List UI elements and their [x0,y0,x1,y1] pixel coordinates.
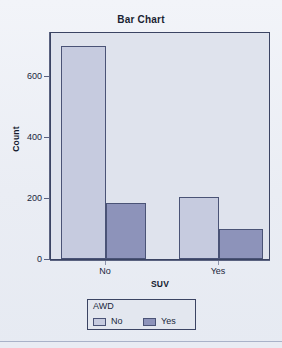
legend-swatch-no-icon [93,318,106,326]
bar-suv-yes-awd-yes[interactable] [219,229,263,259]
x-tick-mark-no [105,261,106,265]
chart-page: Bar Chart 0 200 400 600 Count No Yes SUV… [0,0,282,348]
plot-area [50,32,270,260]
y-tick-mark-400 [44,137,49,138]
y-tick-mark-200 [44,198,49,199]
x-axis-line [50,260,270,261]
y-tick-label-600: 600 [0,72,42,81]
y-tick-mark-600 [44,76,49,77]
legend-label-yes: Yes [161,317,176,326]
y-tick-label-200: 200 [0,194,42,203]
legend-label-no: No [111,317,123,326]
y-axis-title: Count [11,114,21,164]
x-axis-title: SUV [50,279,270,289]
legend-item-yes[interactable]: Yes [143,315,176,328]
y-axis-line [49,32,50,260]
page-title: Bar Chart [0,14,282,25]
legend-item-no[interactable]: No [93,315,123,328]
bar-suv-yes-awd-no[interactable] [179,197,219,259]
bottom-strip [0,342,282,348]
bar-suv-no-awd-no[interactable] [61,46,106,259]
bar-suv-no-awd-yes[interactable] [106,203,146,259]
legend-swatch-yes-icon [143,318,156,326]
plot-inner [51,33,269,259]
x-tick-label-yes: Yes [188,266,248,276]
y-tick-label-0: 0 [0,255,42,264]
x-tick-label-no: No [75,266,135,276]
y-tick-label-400: 400 [0,133,42,142]
legend-title: AWD [93,302,114,312]
legend: AWD No Yes [87,299,196,330]
x-tick-mark-yes [218,261,219,265]
y-tick-mark-0 [44,259,49,260]
